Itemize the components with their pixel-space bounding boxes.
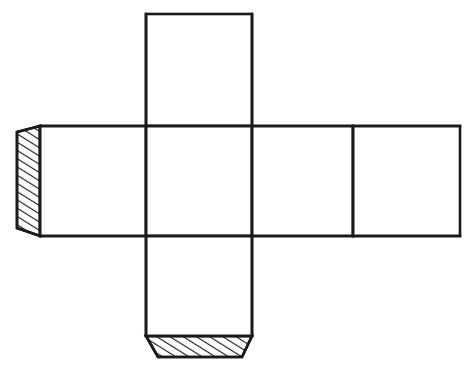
face-bottom [146,236,252,336]
face-top [146,14,252,126]
face-left [40,126,146,236]
tab-left [17,126,40,236]
face-right [252,126,353,236]
face-back [353,126,460,236]
face-group [40,14,460,336]
cube-net-diagram [0,0,474,375]
tab-bottom [146,336,252,357]
face-front [146,126,252,236]
cube-net-svg [0,0,474,375]
